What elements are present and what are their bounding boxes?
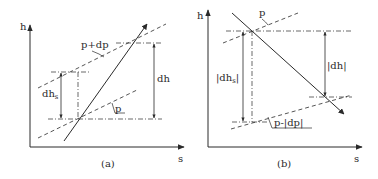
s-axis-label-b: s <box>354 153 359 164</box>
isobar-lower-label-b: p-|dp| <box>274 117 303 129</box>
caption-a: (a) <box>101 158 115 169</box>
dh-s-label-b: |dhs| <box>216 72 239 85</box>
isobar-upper-label-b: p <box>259 7 265 18</box>
caption-b: (b) <box>277 158 291 169</box>
h-axis-label-b: h <box>197 10 204 21</box>
h-axis-label-a: h <box>20 21 27 32</box>
dh-s-label-a: dhs <box>42 88 59 101</box>
panel-a: h s dhs dh p+dp p (a) <box>20 21 184 169</box>
diagram-figure: h s dhs dh p+dp p (a) h s <box>0 0 378 179</box>
isobar-lower-label-a: p <box>115 103 121 114</box>
panel-b: h s |dhs| |dh| p p-|dp| (b) <box>197 7 362 169</box>
isobar-upper-label-a: p+dp <box>81 39 109 50</box>
isobar-upper-leader-b <box>262 19 268 25</box>
s-axis-label-a: s <box>178 153 183 164</box>
dh-label-b: |dh| <box>327 60 347 72</box>
isobar-upper-leader-a <box>92 51 104 57</box>
dh-label-a: dh <box>157 73 170 84</box>
